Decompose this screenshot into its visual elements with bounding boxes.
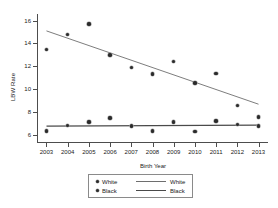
legend-line-swatch-icon bbox=[136, 181, 170, 182]
data-point bbox=[193, 130, 196, 133]
chart-figure: LBW Rate Birth Year 6810121416 200320042… bbox=[0, 0, 278, 208]
legend-marker-label: White bbox=[102, 178, 136, 186]
legend-row: Black Black bbox=[93, 186, 188, 195]
data-point bbox=[236, 104, 239, 107]
data-point bbox=[257, 124, 260, 127]
data-point bbox=[108, 53, 111, 56]
legend-marker-icon bbox=[93, 189, 102, 192]
data-point bbox=[151, 72, 154, 75]
data-point bbox=[151, 129, 154, 132]
data-point bbox=[108, 116, 111, 119]
data-point bbox=[45, 48, 48, 51]
data-point bbox=[130, 124, 133, 127]
data-point bbox=[236, 123, 239, 126]
legend-line-label: White bbox=[170, 178, 185, 186]
data-point bbox=[214, 119, 217, 122]
data-point bbox=[87, 120, 90, 123]
legend-line-label: Black bbox=[170, 187, 185, 195]
data-point bbox=[214, 72, 217, 75]
legend-marker-icon bbox=[93, 180, 102, 183]
legend-marker-label: Black bbox=[102, 187, 136, 195]
data-point bbox=[45, 129, 48, 132]
legend-line-swatch-icon bbox=[136, 190, 170, 191]
legend-row: White White bbox=[93, 177, 188, 186]
trend-line bbox=[46, 31, 258, 104]
data-point bbox=[193, 81, 196, 84]
chart-legend: White White Black Black bbox=[88, 174, 193, 198]
trend-line bbox=[46, 125, 258, 126]
data-point bbox=[87, 22, 90, 25]
data-point bbox=[257, 115, 260, 118]
